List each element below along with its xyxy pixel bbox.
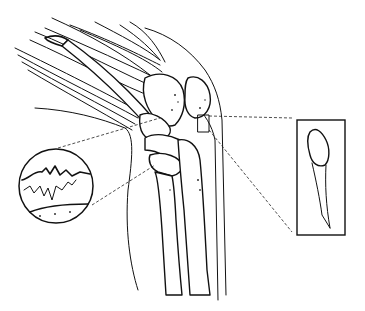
illustration-canvas — [0, 0, 365, 311]
rectangular-inset — [297, 120, 345, 235]
patella — [185, 77, 210, 118]
anatomical-illustration — [0, 0, 365, 311]
circular-magnified-inset — [19, 149, 93, 223]
